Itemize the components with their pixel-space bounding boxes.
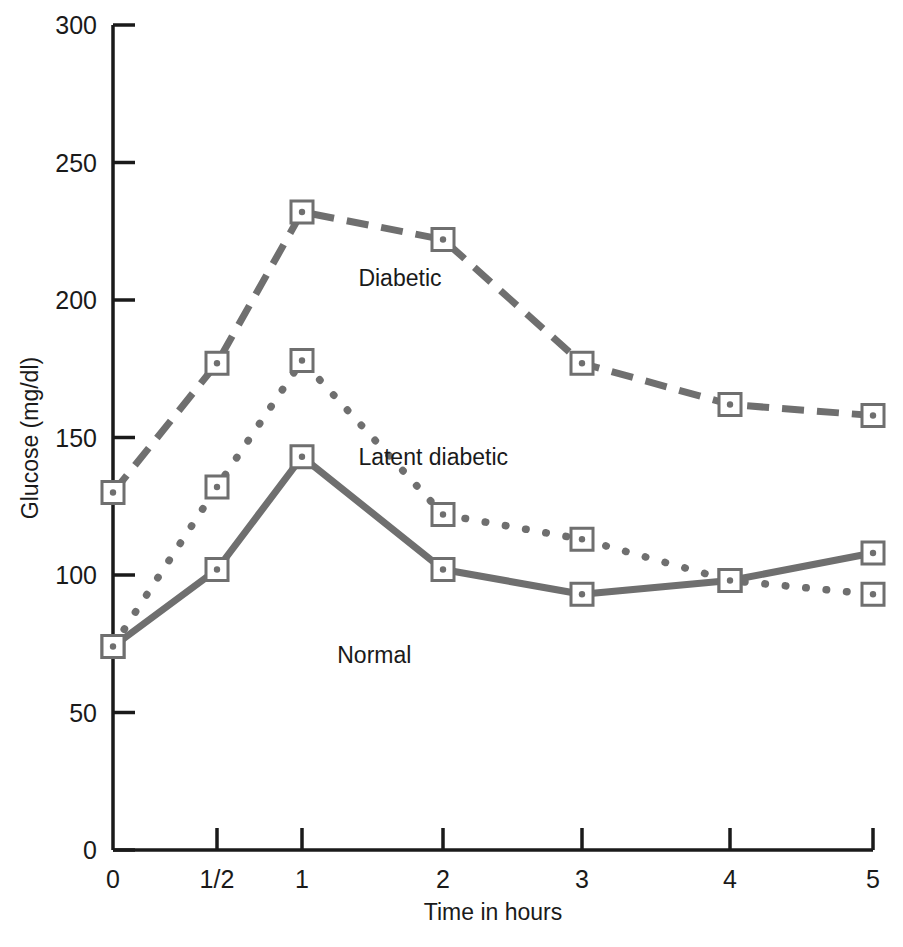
glucose-tolerance-chart: 050100150200250300 01/212345 DiabeticLat… [0,0,903,947]
data-point-dot [214,566,220,572]
series-layer [102,201,884,658]
data-point-dot [110,489,116,495]
data-point-dot [870,550,876,556]
y-axis-title: Glucose (mg/dl) [17,357,43,519]
annotation-normal: Normal [337,642,411,668]
y-axis-tick-label: 250 [55,149,97,177]
axis-group [113,25,873,850]
data-point-dot [870,412,876,418]
y-axis-tick-label: 50 [69,699,97,727]
x-axis-tick-label: 1/2 [200,865,235,893]
data-point-dot [299,357,305,363]
y-axis-tick-label: 0 [83,836,97,864]
data-point-dot [299,454,305,460]
x-axis-tick-label: 3 [575,865,589,893]
data-point-dot [440,236,446,242]
y-axis-ticks [113,25,135,850]
annotation-diabetic: Diabetic [358,265,441,291]
data-point-dot [214,360,220,366]
x-axis-tick-label: 4 [723,865,737,893]
data-point-dot [579,591,585,597]
y-axis-tick-label: 150 [55,424,97,452]
data-point-dot [727,577,733,583]
x-axis-tick-label: 1 [295,865,309,893]
data-point-dot [579,360,585,366]
y-axis-tick-label: 300 [55,11,97,39]
y-axis-tick-labels: 050100150200250300 [55,11,97,864]
series-latent-diabetic [102,350,884,658]
data-point-dot [110,643,116,649]
x-axis-tick-label: 2 [436,865,450,893]
x-axis-tick-label: 5 [866,865,880,893]
series-annotations: DiabeticLatent diabeticNormal [337,265,508,668]
data-point-dot [870,591,876,597]
data-point-dot [727,401,733,407]
annotation-latent-diabetic: Latent diabetic [358,444,508,470]
data-point-dot [299,209,305,215]
y-axis-tick-label: 200 [55,286,97,314]
y-axis-tick-label: 100 [55,561,97,589]
chart-canvas: 050100150200250300 01/212345 DiabeticLat… [0,0,903,947]
x-axis-tick-label: 0 [106,865,120,893]
data-point-dot [579,536,585,542]
data-point-dot [214,484,220,490]
x-axis-title: Time in hours [424,899,562,925]
data-point-dot [440,511,446,517]
data-point-dot [440,566,446,572]
x-axis-tick-labels: 01/212345 [106,865,880,893]
x-axis-ticks [217,828,873,850]
